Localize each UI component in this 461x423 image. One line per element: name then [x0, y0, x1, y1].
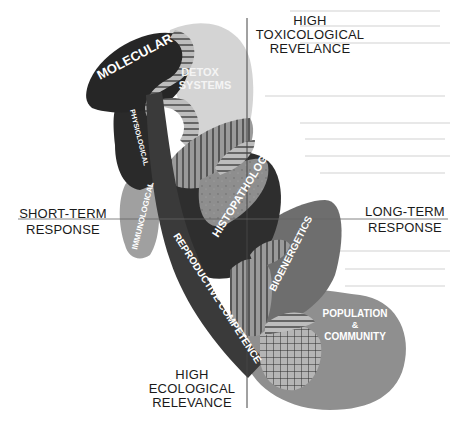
axis-label-right: LONG-TERM RESPONSE [360, 205, 450, 235]
axis-bottom-line1: HIGH [138, 368, 246, 382]
axis-label-top: HIGH TOXICOLOGICAL REVELANCE [250, 14, 370, 56]
label-population-1: POPULATION [323, 308, 388, 319]
axis-bottom-line2: ECOLOGICAL [138, 382, 246, 396]
label-detox-1: DETOX [181, 66, 219, 78]
axis-right-line2: RESPONSE [360, 221, 450, 235]
axis-top-line1: HIGH [250, 14, 370, 28]
axis-label-bottom: HIGH ECOLOGICAL RELEVANCE [138, 368, 246, 410]
axis-top-line2: TOXICOLOGICAL [250, 28, 370, 42]
axis-left-line2: RESPONSE [14, 223, 112, 237]
label-population-2: & [352, 320, 359, 330]
label-population-3: COMMUNITY [324, 331, 386, 342]
axis-right-line1: LONG-TERM [360, 205, 450, 219]
label-detox-2: SYSTEMS [179, 79, 232, 91]
axis-left-line1: SHORT-TERM [14, 207, 112, 221]
axis-label-left: SHORT-TERM RESPONSE [14, 207, 112, 237]
axis-top-line3: REVELANCE [250, 42, 370, 56]
axis-bottom-line3: RELEVANCE [138, 396, 246, 410]
